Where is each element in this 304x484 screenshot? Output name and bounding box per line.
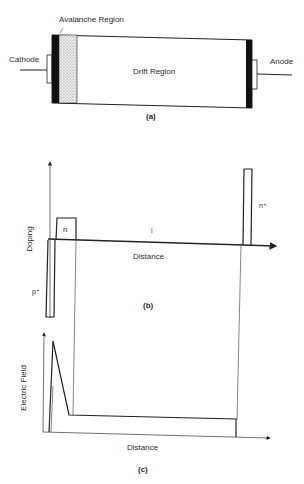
n-plus-label: n⁺ [259, 202, 267, 209]
anode-label: Anode [270, 58, 293, 66]
avalanche-region [59, 35, 77, 103]
caption-c: (c) [138, 466, 148, 474]
field-curve [49, 341, 236, 437]
doping-profile [46, 162, 276, 420]
field-distance-label: Distance [127, 444, 158, 452]
caption-b: (b) [143, 302, 153, 310]
n-plus-region [243, 169, 252, 245]
doping-axis-label: Doping [26, 226, 34, 251]
anode-lead [257, 74, 292, 75]
cathode-label: Cathode [9, 56, 39, 64]
caption-a: (a) [146, 113, 156, 121]
electric-field-axis-label: Electric Field [20, 365, 28, 411]
anode-contact [246, 40, 252, 108]
drift-region-label: Drift Region [133, 68, 175, 76]
p-plus-region [46, 240, 55, 317]
cathode-tab [47, 55, 52, 83]
doping-distance-label: Distance [133, 253, 164, 261]
cathode-contact [52, 35, 59, 103]
p-plus-label: p⁺ [32, 288, 40, 295]
n-label: n [63, 226, 67, 234]
i-label: i [151, 227, 153, 234]
electric-field-profile [43, 333, 270, 438]
avalanche-region-label: Avalanche Region [59, 16, 124, 24]
avalanche-leader [60, 28, 63, 33]
anode-tab [252, 60, 257, 89]
